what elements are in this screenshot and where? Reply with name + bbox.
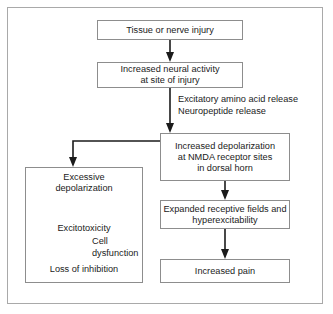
- node-label-line1: Increased depolarization: [163, 141, 287, 152]
- node-loss-of-inhibition: Loss of inhibition: [25, 264, 143, 275]
- node-label-line2: hyperexcitability: [163, 215, 287, 226]
- edge-label-line2: dysfunction: [92, 248, 138, 260]
- node-label: Increased pain: [163, 266, 287, 277]
- edge-label-neurotransmitter-release: Excitatory amino acid release Neuropepti…: [178, 94, 298, 117]
- node-label-line1: Expanded receptive fields and: [163, 204, 287, 215]
- node-label-line2: depolarization: [25, 183, 143, 194]
- node-label: Excitotoxicity: [57, 223, 110, 233]
- edge-label-cell-dysfunction: Cell dysfunction: [92, 236, 138, 259]
- node-label: Tissue or nerve injury: [100, 25, 240, 36]
- node-excitotoxicity: Excitotoxicity: [25, 223, 143, 234]
- flowchart-figure: Tissue or nerve injury Increased neural …: [0, 0, 333, 314]
- node-label: Loss of inhibition: [50, 264, 118, 274]
- edge-label-line1: Excitatory amino acid release: [178, 94, 298, 106]
- edge-label-line1: Cell: [92, 236, 138, 248]
- node-label-line3: in dorsal horn: [163, 163, 287, 174]
- node-increased-depolarization: Increased depolarization at NMDA recepto…: [160, 133, 290, 181]
- node-excessive-depolarization: Excessive depolarization: [25, 172, 143, 194]
- node-increased-pain: Increased pain: [160, 259, 290, 283]
- node-increased-neural-activity: Increased neural activity at site of inj…: [97, 62, 243, 88]
- node-label-line2: at site of injury: [100, 75, 240, 86]
- node-tissue-or-nerve-injury: Tissue or nerve injury: [97, 20, 243, 40]
- node-label-line1: Increased neural activity: [100, 64, 240, 75]
- node-label-line2: at NMDA receptor sites: [163, 152, 287, 163]
- edge-label-line2: Neuropeptide release: [178, 106, 298, 118]
- node-label-line1: Excessive: [25, 172, 143, 183]
- node-expanded-receptive-fields: Expanded receptive fields and hyperexcit…: [160, 200, 290, 229]
